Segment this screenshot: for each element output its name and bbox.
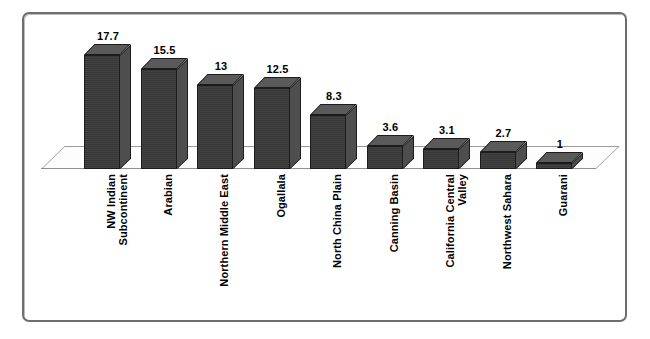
bar-body-3d: 13 xyxy=(197,74,233,169)
category-label-9: Guarani xyxy=(557,174,579,314)
bar-5[interactable]: 8.3 xyxy=(310,104,346,169)
bar-3[interactable]: 13 xyxy=(197,74,233,169)
bar-front-face xyxy=(141,69,177,169)
bar-body-3d: 17.7 xyxy=(84,44,120,169)
bar-value-label: 8.3 xyxy=(304,90,364,102)
category-label-1: NW Indian Subcontinent xyxy=(105,174,127,314)
bar-front-face xyxy=(480,152,516,169)
bar-value-label: 17.7 xyxy=(78,30,138,42)
category-label-2: Arabian xyxy=(162,174,184,314)
plot-area: 17.715.51312.58.33.63.12.71 NW Indian Su… xyxy=(24,14,629,324)
bar-side-face xyxy=(177,58,188,169)
category-label-5: North China Plain xyxy=(331,174,353,314)
bar-value-label: 12.5 xyxy=(248,63,308,75)
category-label-8: Northwest Sahara xyxy=(501,174,523,314)
bar-front-face xyxy=(423,149,459,169)
bar-value-label: 15.5 xyxy=(135,44,195,56)
bar-value-label: 13 xyxy=(191,60,251,72)
category-label-7: California Central Valley xyxy=(444,174,466,314)
bar-front-face xyxy=(197,85,233,169)
bar-body-3d: 3.6 xyxy=(367,135,403,169)
bar-2[interactable]: 15.5 xyxy=(141,58,177,169)
category-label-3: Northern Middle East xyxy=(218,174,240,314)
bar-6[interactable]: 3.6 xyxy=(367,135,403,169)
bar-side-face xyxy=(233,75,244,169)
chart-frame-border: 17.715.51312.58.33.63.12.71 NW Indian Su… xyxy=(22,12,627,322)
bar-front-face xyxy=(310,115,346,169)
bar-7[interactable]: 3.1 xyxy=(423,138,459,169)
bar-front-face xyxy=(367,146,403,169)
chart-root: 17.715.51312.58.33.63.12.71 NW Indian Su… xyxy=(0,0,650,339)
bar-side-face xyxy=(290,78,301,169)
category-label-6: Canning Basin xyxy=(388,174,410,314)
category-label-4: Ogallala xyxy=(275,174,297,314)
bar-side-face xyxy=(120,44,131,169)
bar-front-face xyxy=(84,55,120,169)
bar-front-face xyxy=(254,88,290,169)
category-labels-layer: NW Indian SubcontinentArabianNorthern Mi… xyxy=(24,174,629,324)
bar-body-3d: 3.1 xyxy=(423,138,459,169)
bar-body-3d: 2.7 xyxy=(480,141,516,169)
bar-8[interactable]: 2.7 xyxy=(480,141,516,169)
bar-value-label: 2.7 xyxy=(474,127,534,139)
bar-value-label: 3.1 xyxy=(417,124,477,136)
bar-body-3d: 12.5 xyxy=(254,77,290,169)
bar-front-face xyxy=(536,163,572,169)
bar-value-label: 3.6 xyxy=(361,121,421,133)
bar-body-3d: 8.3 xyxy=(310,104,346,169)
bar-9[interactable]: 1 xyxy=(536,152,572,169)
bar-body-3d: 1 xyxy=(536,152,572,169)
bar-body-3d: 15.5 xyxy=(141,58,177,169)
bar-value-label: 1 xyxy=(530,138,590,150)
bar-side-face xyxy=(346,105,357,169)
bar-4[interactable]: 12.5 xyxy=(254,77,290,169)
bar-1[interactable]: 17.7 xyxy=(84,44,120,169)
